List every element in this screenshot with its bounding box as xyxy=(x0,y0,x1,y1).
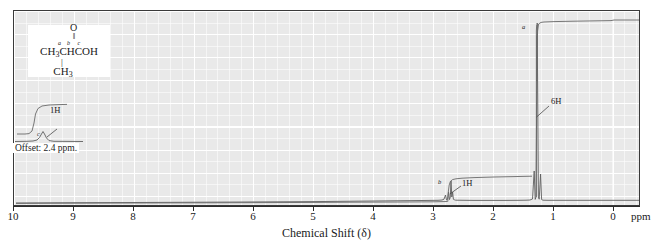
structure-main-chain: CH3CHCOH xyxy=(40,46,98,59)
axis-tick-label-6: 6 xyxy=(250,210,256,222)
x-axis: 109876543210 xyxy=(13,206,640,226)
chemical-structure-inset: O ‖ a b c CH3CHCOH | CH3 xyxy=(28,25,110,77)
axis-tick-label-1: 1 xyxy=(550,210,556,222)
axis-tick-label-5: 5 xyxy=(310,210,316,222)
peak-label-a: a xyxy=(522,23,525,30)
axis-tick-label-2: 2 xyxy=(490,210,496,222)
annotation-1h-cooh: 1H xyxy=(50,105,60,115)
axis-tick-label-3: 3 xyxy=(430,210,436,222)
integration-curve-b xyxy=(448,176,532,201)
structure-methyl-sub: 3 xyxy=(69,70,73,79)
axis-line xyxy=(13,206,640,207)
structure-chain-rest: CHCOH xyxy=(59,45,98,57)
axis-tick-label-9: 9 xyxy=(70,210,76,222)
offset-inset-trace: c xyxy=(13,96,91,146)
axis-tick-label-8: 8 xyxy=(130,210,136,222)
axis-tick-label-0: 0 xyxy=(610,210,616,222)
svg-text:c: c xyxy=(37,130,40,137)
nmr-figure: a b 6H 1H c 1H Offset: 2.4 ppm. O ‖ a b xyxy=(0,0,653,248)
offset-note: Offset: 2.4 ppm. xyxy=(13,143,79,153)
annotation-6h: 6H xyxy=(551,96,561,106)
annotation-1h-methine: 1H xyxy=(462,178,472,188)
structure-methyl: CH3 xyxy=(53,66,72,79)
axis-tick-label-7: 7 xyxy=(190,210,196,222)
peak-label-b: b xyxy=(438,178,441,185)
axis-tick-label-4: 4 xyxy=(370,210,376,222)
axis-unit-label: ppm xyxy=(631,210,651,222)
structure-methyl-base: CH xyxy=(53,65,68,77)
integration-curve-a xyxy=(537,20,639,81)
x-axis-title: Chemical Shift (δ) xyxy=(0,226,653,241)
axis-tick-label-10: 10 xyxy=(8,210,19,222)
structure-chain-c1: CH xyxy=(40,45,55,57)
